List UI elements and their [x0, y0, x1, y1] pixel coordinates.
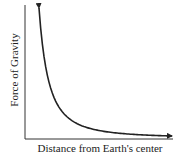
gravity-curve: [39, 8, 172, 136]
gravity-distance-chart: Force of Gravity Distance from Earth's c…: [0, 0, 185, 163]
x-axis-label: Distance from Earth's center: [37, 142, 162, 154]
chart-plot: [0, 0, 185, 163]
y-axis-label: Force of Gravity: [8, 33, 20, 106]
